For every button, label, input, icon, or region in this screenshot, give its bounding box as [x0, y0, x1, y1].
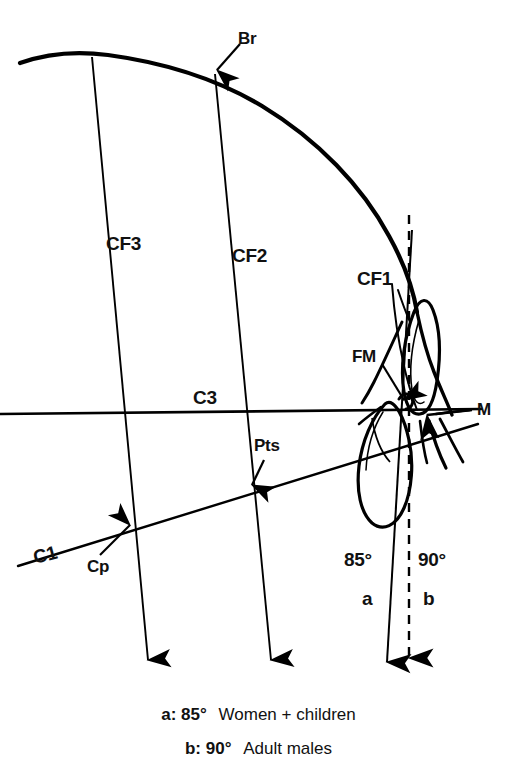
angle-label-90: 90°	[418, 550, 446, 569]
reference-label-c3: C3	[193, 388, 217, 407]
reference-label-cf2: CF2	[232, 246, 267, 265]
caption-b-key: b:	[185, 739, 201, 758]
caption-b-description: Adult males	[243, 739, 332, 758]
reference-line-cf2	[215, 74, 271, 660]
landmark-label-fm: FM	[352, 348, 376, 365]
occipital-detail	[358, 284, 470, 527]
skull-diagram-svg	[0, 0, 517, 779]
angle-label-85: 85°	[344, 550, 372, 569]
br-leader-arrow	[217, 44, 240, 70]
caption-a-key: a:	[161, 705, 176, 724]
reference-label-cf3: CF3	[106, 234, 141, 253]
caption-a-description: Women + children	[219, 705, 356, 724]
angle-marker-b: b	[423, 589, 434, 608]
landmark-label-br: Br	[238, 30, 256, 47]
landmark-label-pts: Pts	[254, 437, 280, 454]
skull-outline	[20, 53, 452, 415]
figure-page: Br CF3 CF2 CF1 FM C3 M Pts C1 Cp 85° 90°…	[0, 0, 517, 779]
caption-b-degrees: 90°	[206, 739, 232, 758]
landmark-label-m: M	[477, 401, 491, 418]
caption-line-a: a: 85° Women + children	[0, 706, 517, 723]
caption-line-b: b: 90° Adult males	[0, 740, 517, 757]
angle-marker-a: a	[362, 589, 372, 608]
landmark-label-cp: Cp	[87, 558, 109, 575]
reference-label-cf1: CF1	[357, 269, 392, 288]
fm-leader-arrow	[382, 364, 404, 400]
caption-a-degrees: 85°	[181, 705, 207, 724]
